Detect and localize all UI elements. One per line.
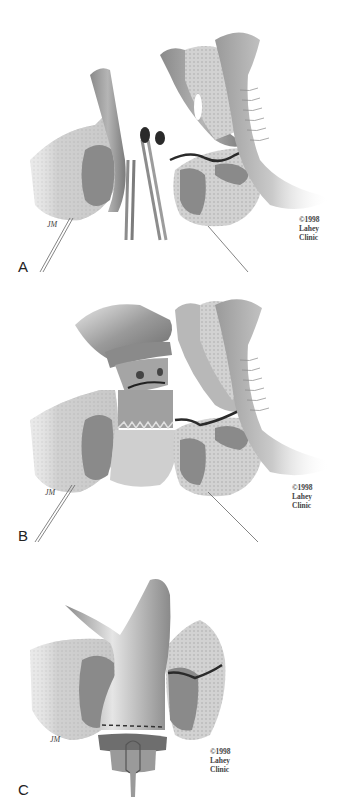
panel-letter-a: A [18,258,28,275]
panel-a: JM ©1998 Lahey Clinic A [0,0,348,280]
copyright-notice: ©1998 Lahey Clinic [210,747,231,774]
panel-c: JM ©1998 Lahey Clinic C [0,545,348,802]
panel-c-illustration [0,545,348,802]
panel-letter-b: B [18,527,28,544]
surgical-clamps [126,127,166,240]
artist-signature: JM [47,220,57,229]
panel-letter-c: C [18,781,29,798]
artist-signature: JM [45,488,55,497]
left-sphincter [82,145,115,206]
stapler-body [110,750,156,773]
left-sphincter [82,415,114,480]
copyright-notice: ©1998 Lahey Clinic [292,483,313,510]
stapler-shaft [130,770,136,797]
copyright-notice: ©1998 Lahey Clinic [299,215,320,242]
panel-b: JM ©1998 Lahey Clinic B [0,280,348,545]
stapler-head [98,733,167,752]
artist-signature: JM [50,735,60,744]
panel-a-illustration [0,0,348,280]
